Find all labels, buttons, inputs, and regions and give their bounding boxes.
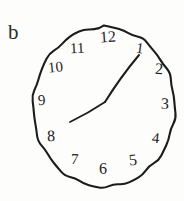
- minute-hand: [105, 55, 139, 102]
- clock-numeral-10: 10: [47, 59, 63, 75]
- clock-hands-group: [70, 55, 139, 122]
- clock-drawing-svg: [0, 0, 184, 201]
- hour-hand: [70, 102, 105, 122]
- clock-numeral-11: 11: [70, 41, 85, 57]
- clock-drawing-figure: b 121234567891011: [0, 0, 184, 201]
- clock-numeral-2: 2: [154, 61, 163, 78]
- clock-numeral-4: 4: [151, 131, 160, 147]
- clock-numeral-3: 3: [161, 96, 170, 112]
- clock-numeral-8: 8: [47, 128, 56, 144]
- clock-numeral-7: 7: [71, 152, 79, 167]
- clock-numeral-12: 12: [99, 28, 116, 45]
- clock-numeral-9: 9: [37, 93, 46, 108]
- clock-numeral-5: 5: [128, 152, 138, 169]
- clock-numeral-6: 6: [99, 161, 107, 177]
